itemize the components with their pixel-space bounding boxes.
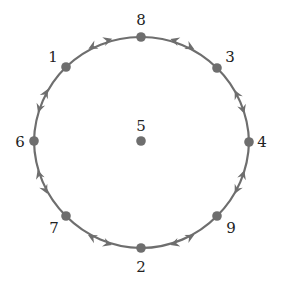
edge-1-8 (66, 37, 141, 67)
node-label-9: 9 (226, 219, 236, 237)
edge-4-9 (217, 142, 249, 216)
edge-8-3 (141, 37, 217, 68)
node-6 (29, 136, 39, 146)
node-2 (136, 243, 146, 253)
node-label-3: 3 (225, 48, 235, 66)
node-8 (136, 32, 146, 42)
node-7 (61, 211, 71, 221)
node-9 (212, 211, 222, 221)
node-3 (212, 63, 222, 73)
node-4 (244, 137, 254, 147)
edge-7-6 (34, 141, 66, 216)
edge-3-4 (217, 68, 249, 142)
arrowhead-icon (88, 41, 98, 49)
node-5 (136, 136, 146, 146)
edge-6-1 (34, 67, 66, 141)
node-label-7: 7 (49, 219, 59, 237)
arrowhead-icon (88, 235, 98, 243)
node-label-6: 6 (15, 133, 25, 151)
node-label-4: 4 (257, 133, 267, 151)
edge-2-7 (66, 216, 141, 248)
node-label-8: 8 (136, 11, 146, 29)
cycle-diagram: 834927615 (0, 0, 286, 288)
arrowhead-icon (184, 41, 194, 49)
node-label-2: 2 (136, 258, 146, 276)
edge-9-2 (141, 216, 217, 248)
node-1 (61, 62, 71, 72)
node-label-1: 1 (48, 48, 58, 66)
nodes-group (29, 32, 254, 253)
node-label-5: 5 (136, 117, 146, 135)
arrowhead-icon (170, 238, 180, 247)
